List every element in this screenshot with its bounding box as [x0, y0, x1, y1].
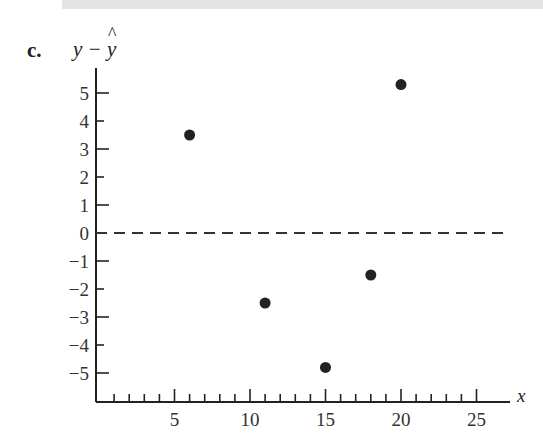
x-tick-label: 20 — [392, 409, 411, 430]
y-tick-label: −3 — [69, 307, 89, 328]
residual-point — [184, 130, 195, 141]
y-tick-label: 2 — [80, 167, 90, 188]
residual-point — [260, 298, 271, 309]
x-tick-label: 5 — [170, 409, 180, 430]
y-tick-label: −5 — [69, 363, 89, 384]
y-tick-label: 3 — [80, 139, 90, 160]
residual-point — [320, 362, 331, 373]
residual-plot: 543210−1−2−3−4−5510152025 — [0, 0, 543, 440]
y-tick-label: 5 — [80, 83, 90, 104]
y-tick-label: −2 — [69, 279, 89, 300]
x-tick-label: 25 — [467, 409, 486, 430]
y-tick-label: −4 — [69, 335, 90, 356]
y-tick-label: 1 — [80, 195, 90, 216]
residual-point — [396, 79, 407, 90]
residual-point — [365, 270, 376, 281]
y-tick-label: 4 — [80, 111, 90, 132]
y-tick-label: −1 — [69, 251, 89, 272]
x-tick-label: 15 — [316, 409, 335, 430]
x-tick-label: 10 — [241, 409, 260, 430]
y-tick-label: 0 — [80, 223, 90, 244]
